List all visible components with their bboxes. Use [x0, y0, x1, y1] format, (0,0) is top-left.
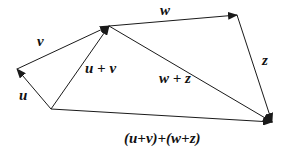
label-v: v	[37, 34, 44, 49]
vector-total-arrow	[51, 109, 272, 122]
label-u: u	[19, 88, 27, 103]
vector-addition-diagram: u v u + v w z w + z (u+v)+(w+z)	[0, 0, 288, 155]
label-w: w	[160, 3, 170, 18]
label-w-plus-z: w + z	[159, 71, 191, 86]
vector-w-arrow	[109, 15, 237, 26]
vector-z-arrow	[237, 15, 272, 122]
label-u-plus-v: u + v	[85, 61, 116, 76]
label-total: (u+v)+(w+z)	[124, 131, 200, 146]
label-z: z	[262, 53, 268, 68]
